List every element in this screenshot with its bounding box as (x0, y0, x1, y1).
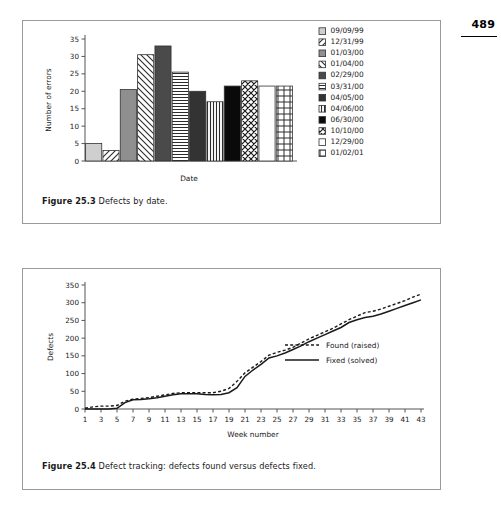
bar (172, 72, 188, 161)
figure-caption-text: Defects by date. (99, 196, 168, 206)
figure-caption-25-3: Figure 25.3 Defects by date. (42, 196, 168, 206)
svg-text:17: 17 (208, 415, 217, 424)
legend-label: Fixed (solved) (326, 356, 377, 365)
svg-text:250: 250 (65, 316, 79, 325)
svg-text:37: 37 (368, 415, 377, 424)
figure-caption-number: Figure 25.3 (42, 196, 96, 206)
bar (224, 86, 240, 161)
legend-swatch (319, 117, 326, 124)
svg-text:29: 29 (304, 415, 314, 424)
bar (276, 86, 292, 161)
svg-text:100: 100 (65, 369, 79, 378)
svg-text:350: 350 (65, 281, 79, 290)
legend-swatch (319, 50, 326, 57)
legend-label: 03/31/00 (331, 82, 364, 91)
svg-text:27: 27 (288, 415, 297, 424)
legend-swatch (319, 72, 326, 79)
figure-box-defect-tracking: 050100150200250300350Defects135791113151… (22, 268, 441, 490)
svg-text:Date: Date (180, 174, 198, 183)
svg-text:33: 33 (336, 415, 345, 424)
svg-text:30: 30 (70, 52, 80, 61)
svg-text:3: 3 (99, 415, 104, 424)
svg-text:0: 0 (74, 405, 79, 414)
svg-text:11: 11 (160, 415, 169, 424)
bar (120, 90, 136, 161)
svg-text:25: 25 (272, 415, 281, 424)
legend-swatch (319, 106, 326, 113)
legend-label: 04/06/00 (331, 104, 364, 113)
legend-label: Found (raised) (326, 341, 380, 350)
svg-text:1: 1 (83, 415, 88, 424)
legend-label: 12/31/99 (331, 37, 364, 46)
svg-text:0: 0 (74, 157, 79, 166)
bar (207, 102, 223, 161)
legend-swatch (319, 39, 326, 46)
series-solid (85, 300, 421, 409)
legend-label: 01/03/00 (331, 48, 364, 57)
svg-text:13: 13 (176, 415, 185, 424)
legend-label: 01/02/01 (331, 148, 364, 157)
page-number: 489 (471, 18, 495, 31)
svg-text:200: 200 (65, 334, 79, 343)
legend-swatch (319, 83, 326, 90)
legend-label: 04/05/00 (331, 93, 364, 102)
svg-text:Number of errors: Number of errors (44, 68, 53, 131)
legend-label: 10/10/00 (331, 126, 364, 135)
legend-swatch (319, 94, 326, 101)
svg-text:Week number: Week number (227, 430, 279, 439)
svg-text:35: 35 (70, 35, 79, 44)
svg-text:41: 41 (400, 415, 409, 424)
figure-caption-number: Figure 25.4 (42, 461, 96, 471)
svg-text:15: 15 (70, 104, 79, 113)
bar (138, 55, 154, 161)
figure-box-defects-by-date: 05101520253035Number of errorsDate09/09/… (22, 20, 441, 224)
svg-text:7: 7 (131, 415, 136, 424)
legend-label: 06/30/00 (331, 115, 364, 124)
bar (259, 86, 275, 161)
svg-text:10: 10 (70, 122, 80, 131)
line-chart-defect-tracking: 050100150200250300350Defects135791113151… (23, 269, 440, 465)
svg-text:43: 43 (416, 415, 425, 424)
svg-text:31: 31 (320, 415, 329, 424)
svg-text:150: 150 (65, 351, 79, 360)
series-dotted (85, 294, 421, 408)
legend-label: 01/04/00 (331, 59, 364, 68)
bar (190, 91, 206, 161)
legend-swatch (319, 139, 326, 146)
legend-swatch (319, 128, 326, 135)
svg-text:15: 15 (192, 415, 201, 424)
svg-text:19: 19 (224, 415, 234, 424)
legend-swatch (319, 150, 326, 157)
bar-chart-defects-by-date: 05101520253035Number of errorsDate09/09/… (23, 21, 440, 199)
bar (155, 46, 171, 161)
header-rule (461, 36, 497, 37)
legend-swatch (319, 61, 326, 68)
svg-text:21: 21 (240, 415, 249, 424)
svg-text:50: 50 (70, 387, 80, 396)
svg-text:9: 9 (147, 415, 152, 424)
legend-label: 09/09/99 (331, 26, 364, 35)
svg-text:5: 5 (115, 415, 120, 424)
svg-text:20: 20 (70, 87, 80, 96)
svg-text:23: 23 (256, 415, 265, 424)
svg-text:25: 25 (70, 69, 79, 78)
bar (103, 151, 119, 161)
bar (242, 81, 258, 161)
svg-text:39: 39 (384, 415, 394, 424)
figure-caption-25-4: Figure 25.4 Defect tracking: defects fou… (42, 461, 316, 471)
figure-caption-text: Defect tracking: defects found versus de… (99, 461, 316, 471)
svg-text:300: 300 (65, 298, 79, 307)
bar (86, 144, 102, 161)
svg-text:5: 5 (74, 139, 79, 148)
svg-text:Defects: Defects (46, 333, 55, 361)
legend-label: 12/29/00 (331, 137, 364, 146)
legend-swatch (319, 28, 326, 35)
book-page: 05101520253035Number of errorsDate09/09/… (0, 0, 501, 514)
svg-text:35: 35 (352, 415, 361, 424)
legend-label: 02/29/00 (331, 70, 364, 79)
